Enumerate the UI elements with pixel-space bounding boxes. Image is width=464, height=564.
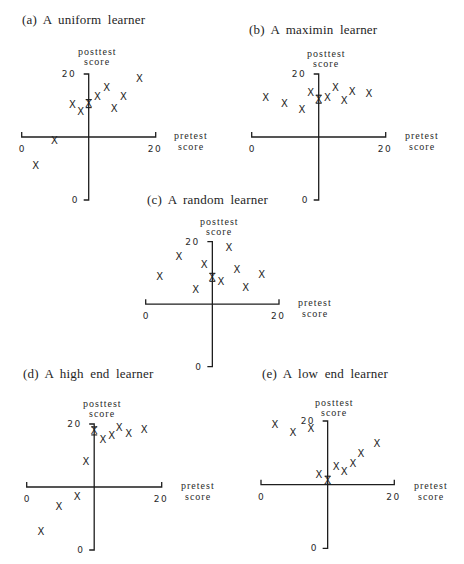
x-axis-label-line1: pretest bbox=[298, 297, 332, 308]
data-point-x-marker: X bbox=[51, 135, 58, 146]
data-point-x-marker: X bbox=[262, 92, 269, 103]
data-point-x-marker: X bbox=[74, 491, 81, 502]
x-axis-label-line2: score bbox=[418, 491, 444, 502]
data-point-x-marker: X bbox=[83, 456, 90, 467]
data-point-x-marker: X bbox=[333, 461, 340, 472]
y-tick-0: 0 bbox=[72, 195, 79, 205]
data-point-x-marker: X bbox=[111, 103, 118, 114]
data-point-x-marker: X bbox=[234, 264, 241, 275]
x-axis-label-line1: pretest bbox=[405, 130, 439, 141]
y-tick-0: 0 bbox=[195, 362, 202, 372]
data-point-x-marker: X bbox=[99, 434, 106, 445]
data-point-x-marker: X bbox=[103, 82, 110, 93]
x-tick-0: 0 bbox=[24, 494, 31, 504]
data-point-x-marker: X bbox=[242, 282, 249, 293]
data-point-x-marker: X bbox=[201, 259, 208, 270]
data-point-x-marker: X bbox=[136, 73, 143, 84]
data-point-x-marker: X bbox=[218, 276, 225, 287]
x-axis-label-line2: score bbox=[302, 308, 328, 319]
data-point-x-marker: X bbox=[349, 458, 356, 469]
data-point-x-marker: X bbox=[289, 427, 296, 438]
x-tick-20: 20 bbox=[271, 311, 285, 321]
x-tick-20: 20 bbox=[378, 144, 392, 154]
data-point-x-marker: X bbox=[192, 284, 199, 295]
y-axis-label-line2: score bbox=[84, 56, 110, 67]
data-point-x-marker: X bbox=[125, 428, 132, 439]
data-point-x-marker: X bbox=[37, 526, 44, 537]
data-point-x-marker: X bbox=[307, 423, 314, 434]
data-point-x-marker: X bbox=[373, 438, 380, 449]
x-tick-0: 0 bbox=[258, 492, 265, 502]
data-point-x-marker: X bbox=[69, 99, 76, 110]
y-tick-20: 20 bbox=[292, 69, 306, 79]
x-axis-label-line1: pretest bbox=[181, 480, 215, 491]
data-point-x-marker: X bbox=[271, 419, 278, 430]
plots-canvas: 020200posttestscorepretestscoreXXXXXXXXX… bbox=[0, 0, 464, 564]
data-point-x-marker: X bbox=[141, 424, 148, 435]
data-point-x-marker: X bbox=[281, 98, 288, 109]
y-tick-0: 0 bbox=[302, 195, 309, 205]
y-axis-label-line2: score bbox=[321, 407, 347, 418]
data-point-x-marker: X bbox=[324, 92, 331, 103]
x-tick-0: 0 bbox=[143, 311, 150, 321]
x-tick-20: 20 bbox=[154, 494, 168, 504]
y-axis-label-line2: score bbox=[89, 408, 115, 419]
x-tick-0: 0 bbox=[249, 144, 256, 154]
data-point-x-marker: X bbox=[116, 422, 123, 433]
data-point-x-marker: X bbox=[108, 430, 115, 441]
data-point-x-marker: X bbox=[77, 106, 84, 117]
data-point-x-marker: X bbox=[176, 251, 183, 262]
data-point-x-marker: X bbox=[315, 469, 322, 480]
data-point-x-marker: X bbox=[32, 160, 39, 171]
data-point-x-marker: X bbox=[341, 466, 348, 477]
data-point-x-marker: X bbox=[156, 271, 163, 282]
y-tick-20: 20 bbox=[62, 69, 76, 79]
x-axis-label-line1: pretest bbox=[174, 130, 208, 141]
data-point-x-marker: X bbox=[226, 242, 233, 253]
data-point-x-marker: X bbox=[120, 91, 127, 102]
y-axis-label-line2: score bbox=[206, 226, 232, 237]
data-point-x-marker: X bbox=[341, 95, 348, 106]
data-point-x-marker: X bbox=[349, 86, 356, 97]
x-tick-20: 20 bbox=[386, 492, 400, 502]
x-axis-label-line1: pretest bbox=[414, 480, 448, 491]
data-point-x-marker: X bbox=[258, 269, 265, 280]
data-point-x-marker: X bbox=[298, 104, 305, 115]
y-tick-0: 0 bbox=[77, 545, 84, 555]
data-point-x-marker: X bbox=[332, 82, 339, 93]
x-tick-0: 0 bbox=[19, 144, 26, 154]
data-point-x-marker: X bbox=[357, 448, 364, 459]
x-axis-label-line2: score bbox=[178, 141, 204, 152]
y-tick-0: 0 bbox=[311, 543, 318, 553]
x-axis-label-line2: score bbox=[185, 491, 211, 502]
y-tick-20: 20 bbox=[185, 237, 199, 247]
y-tick-20: 20 bbox=[67, 419, 81, 429]
x-tick-20: 20 bbox=[148, 144, 162, 154]
x-axis-label-line2: score bbox=[409, 141, 435, 152]
data-point-x-marker: X bbox=[365, 88, 372, 99]
data-point-x-marker: X bbox=[94, 91, 101, 102]
data-point-x-marker: X bbox=[56, 501, 63, 512]
data-point-x-marker: X bbox=[307, 87, 314, 98]
y-axis-label-line2: score bbox=[313, 58, 339, 69]
